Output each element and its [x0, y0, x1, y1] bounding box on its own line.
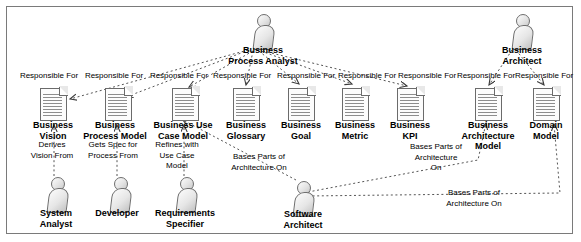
document-lines-icon [345, 94, 364, 117]
document-lines-icon [400, 94, 419, 117]
document-lines-icon [291, 94, 310, 117]
document-lines-icon [108, 94, 127, 117]
relation-label-responsible-for-9: Responsible For [502, 71, 581, 82]
actor-label-software-architect: Software Architect [248, 209, 358, 230]
actor-developer[interactable] [107, 177, 133, 211]
artifact-business-process-model[interactable] [105, 88, 132, 121]
actor-label-business-process-analyst: Business Process Analyst [208, 45, 318, 66]
actor-business-architect[interactable] [509, 14, 535, 48]
artifact-label-domain-model: Domain Model [500, 120, 581, 141]
document-lines-icon [478, 94, 497, 117]
document-lines-icon [236, 94, 255, 117]
actor-label-business-architect: Business Architect [474, 45, 570, 66]
artifact-business-metric[interactable] [342, 88, 369, 121]
actor-system-analyst[interactable] [44, 177, 70, 211]
actor-label-requirements-specifier: Requirements Specifier [125, 208, 245, 229]
document-fold-icon [252, 87, 261, 96]
document-fold-icon [59, 87, 68, 96]
document-fold-icon [361, 87, 370, 96]
actor-business-process-analyst[interactable] [250, 14, 276, 48]
artifact-domain-model[interactable] [533, 88, 560, 121]
artifact-business-kpi[interactable] [397, 88, 424, 121]
relation-label-refines-with-use-case-model: Refines with Use Case Model [136, 140, 218, 172]
artifact-business-goal[interactable] [288, 88, 315, 121]
artifact-business-use-case-model[interactable] [172, 88, 199, 121]
document-fold-icon [124, 87, 133, 96]
relation-label-bases-parts-of-architecture-on-1: Bases Parts of Architecture On [213, 152, 305, 173]
document-lines-icon [536, 94, 555, 117]
diagram-canvas: Business Process Analyst Business Archit… [0, 0, 581, 242]
document-fold-icon [552, 87, 561, 96]
relation-label-bases-parts-of-architecture-on-3: Bases Parts of Architecture On [424, 188, 524, 209]
document-fold-icon [191, 87, 200, 96]
document-fold-icon [307, 87, 316, 96]
document-fold-icon [494, 87, 503, 96]
artifact-business-glossary[interactable] [233, 88, 260, 121]
document-lines-icon [175, 94, 194, 117]
artifact-business-vision[interactable] [40, 88, 67, 121]
relation-label-bases-parts-of-architecture-on-2: Bases Parts of Architecture On [392, 142, 480, 174]
document-lines-icon [43, 94, 62, 117]
document-fold-icon [416, 87, 425, 96]
artifact-business-architecture-model[interactable] [475, 88, 502, 121]
actor-requirements-specifier[interactable] [173, 177, 199, 211]
